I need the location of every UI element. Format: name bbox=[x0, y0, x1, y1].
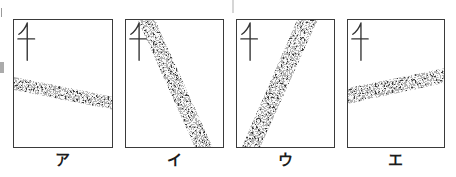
north-arrow-icon bbox=[18, 23, 35, 60]
rock-vein-band bbox=[348, 68, 444, 103]
rock-vein-band bbox=[138, 20, 213, 147]
scan-artifact bbox=[0, 62, 4, 73]
north-arrow-icon bbox=[352, 23, 368, 60]
panel-i-box bbox=[125, 19, 224, 148]
rock-vein-direction-figure: ア イ ウ エ bbox=[0, 0, 456, 177]
panel-i-label: イ bbox=[125, 151, 224, 169]
panel-u-box bbox=[236, 19, 335, 148]
panel-e-label: エ bbox=[347, 151, 445, 169]
panel-a-box bbox=[13, 19, 113, 148]
rock-vein-band bbox=[14, 77, 112, 109]
panel-i: イ bbox=[125, 19, 224, 169]
panel-a: ア bbox=[13, 19, 113, 169]
panel-e: エ bbox=[347, 19, 445, 169]
north-arrow-icon bbox=[241, 23, 257, 60]
scan-artifact bbox=[1, 8, 2, 17]
panel-u: ウ bbox=[236, 19, 335, 169]
panel-a-label: ア bbox=[13, 151, 113, 169]
panel-e-box bbox=[347, 19, 445, 148]
scan-artifact bbox=[232, 0, 234, 13]
panel-u-label: ウ bbox=[236, 151, 335, 169]
